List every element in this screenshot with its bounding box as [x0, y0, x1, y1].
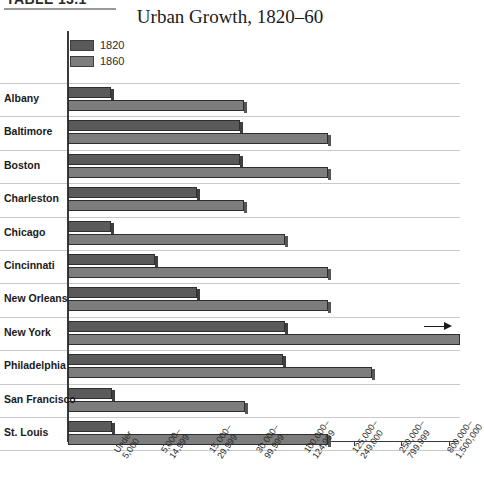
bar-1860-san-francisco	[68, 401, 245, 412]
bar-face	[68, 254, 155, 265]
bar-face	[68, 287, 197, 298]
bar-1820-new-orleans	[68, 287, 197, 298]
bar-1860-boston	[68, 167, 328, 178]
bar-side-face	[328, 269, 331, 280]
bar-face	[68, 401, 245, 412]
gridline	[0, 150, 460, 151]
legend-label-1860: 1860	[100, 55, 124, 67]
bar-face	[68, 221, 111, 232]
bar-1860-cincinnati	[68, 267, 328, 278]
x-axis-tick-label: 100,000– 124,999	[302, 418, 340, 460]
gridline	[0, 317, 460, 318]
legend-item-1860: 1860	[70, 54, 124, 68]
bar-side-face	[112, 390, 115, 401]
y-axis-label-san-francisco: San Francisco	[4, 393, 76, 405]
bar-side-face	[111, 223, 114, 234]
y-axis-label-chicago: Chicago	[4, 226, 45, 238]
bar-side-face	[285, 323, 288, 334]
bar-1860-new-orleans	[68, 300, 328, 311]
legend-swatch-1860	[70, 56, 94, 67]
bar-face	[68, 354, 283, 365]
bar-face	[68, 367, 372, 378]
y-axis-label-charleston: Charleston	[4, 192, 59, 204]
bar-1860-st-louis	[68, 434, 328, 445]
bar-1860-charleston	[68, 200, 244, 211]
bar-face	[68, 334, 460, 345]
bar-side-face	[328, 169, 331, 180]
x-axis-tick-label: 125,000– 249,000	[350, 418, 388, 460]
bar-side-face	[197, 189, 200, 200]
y-axis-label-albany: Albany	[4, 92, 39, 104]
x-axis-tick-label: 800,000– 1,500,000	[445, 416, 484, 460]
legend-swatch-1820	[70, 40, 94, 51]
bar-1860-baltimore	[68, 133, 328, 144]
y-axis-label-st-louis: St. Louis	[4, 426, 48, 438]
bar-side-face	[240, 156, 243, 167]
bar-side-face	[328, 135, 331, 146]
bar-1860-albany	[68, 100, 244, 111]
bar-1820-albany	[68, 87, 111, 98]
bar-side-face	[283, 356, 286, 367]
gridline	[0, 217, 460, 218]
bar-side-face	[372, 369, 375, 380]
bar-side-face	[112, 423, 115, 434]
y-axis-label-baltimore: Baltimore	[4, 125, 52, 137]
gridline	[0, 83, 460, 84]
bar-side-face	[244, 202, 247, 213]
bar-1820-new-york	[68, 321, 285, 332]
x-axis-tick-label: 15,000– 29,999	[207, 422, 242, 460]
bar-side-face	[240, 122, 243, 133]
gridline	[0, 417, 460, 418]
bar-1860-new-york	[68, 334, 460, 345]
y-axis-label-boston: Boston	[4, 159, 40, 171]
bar-1820-cincinnati	[68, 254, 155, 265]
bar-1820-chicago	[68, 221, 111, 232]
bar-face	[68, 421, 112, 432]
bar-face	[68, 154, 240, 165]
bar-1820-philadelphia	[68, 354, 283, 365]
gridline	[0, 183, 460, 184]
bar-1820-boston	[68, 154, 240, 165]
gridline	[0, 116, 460, 117]
bar-face	[68, 300, 328, 311]
bar-face	[68, 434, 328, 445]
bar-side-face	[245, 403, 248, 414]
bar-1820-st-louis	[68, 421, 112, 432]
bar-face	[68, 234, 285, 245]
bar-side-face	[328, 302, 331, 313]
legend-item-1820: 1820	[70, 38, 124, 52]
bar-1820-charleston	[68, 187, 197, 198]
gridline	[0, 384, 460, 385]
legend-label-1820: 1820	[100, 39, 124, 51]
bar-side-face	[197, 289, 200, 300]
bar-face	[68, 187, 197, 198]
y-axis-label-new-orleans: New Orleans	[4, 292, 68, 304]
y-axis-label-new-york: New York	[4, 326, 51, 338]
bar-side-face	[111, 89, 114, 100]
gridline	[0, 250, 460, 251]
x-axis-tick-label: 250,000– 799,999	[397, 418, 435, 460]
bar-side-face	[244, 102, 247, 113]
bar-1860-philadelphia	[68, 367, 372, 378]
gridline	[0, 283, 460, 284]
bar-face	[68, 87, 111, 98]
bar-face	[68, 167, 328, 178]
bar-face	[68, 200, 244, 211]
x-axis-tick-label: 5,000– 14,999	[159, 426, 191, 460]
bar-face	[68, 321, 285, 332]
y-axis-label-philadelphia: Philadelphia	[4, 359, 66, 371]
overflow-arrow-icon	[424, 322, 452, 332]
bar-1820-baltimore	[68, 120, 240, 131]
bar-face	[68, 133, 328, 144]
bar-side-face	[155, 256, 158, 267]
bar-face	[68, 267, 328, 278]
bar-side-face	[285, 236, 288, 247]
y-axis-label-cincinnati: Cincinnati	[4, 259, 55, 271]
gridline	[0, 350, 460, 351]
bar-face	[68, 100, 244, 111]
chart-legend: 18201860	[70, 38, 124, 70]
bar-face	[68, 120, 240, 131]
bar-1860-chicago	[68, 234, 285, 245]
